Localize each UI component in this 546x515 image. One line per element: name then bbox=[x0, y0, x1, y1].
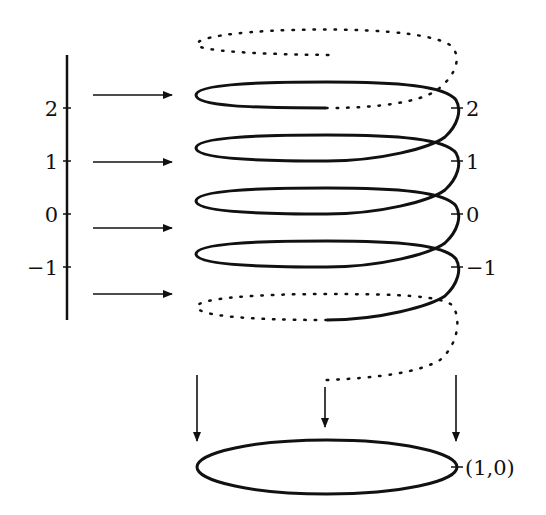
projection-arrows bbox=[197, 375, 456, 441]
base-circle: (1,0) bbox=[197, 440, 515, 494]
helix-covering-diagram: 2 1 0 −1 2 1 0 −1 (1,0) bbox=[0, 0, 546, 515]
helix-tick-label: −1 bbox=[466, 256, 497, 280]
helix-tick-label: 0 bbox=[466, 203, 479, 227]
helix bbox=[196, 30, 463, 380]
real-line-axis: 2 1 0 −1 bbox=[27, 55, 71, 320]
helix-tick-label: 2 bbox=[466, 97, 479, 121]
circle-point-label: (1,0) bbox=[465, 456, 515, 480]
helix-tick-label: 1 bbox=[466, 150, 479, 174]
axis-tick-label: 1 bbox=[45, 150, 58, 174]
axis-tick-label: −1 bbox=[27, 256, 58, 280]
axis-tick-label: 2 bbox=[45, 97, 58, 121]
embedding-arrows bbox=[93, 95, 172, 294]
helix-solid bbox=[196, 82, 459, 320]
axis-tick-label: 0 bbox=[45, 203, 58, 227]
helix-dotted-top bbox=[197, 30, 457, 108]
